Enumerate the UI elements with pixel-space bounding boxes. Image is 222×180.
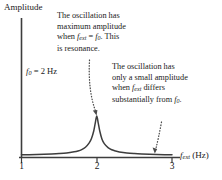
x-tick-label-3: 3	[165, 161, 179, 171]
x-axis-title-subscript: ext	[183, 153, 191, 160]
annotation-off-resonance-line-4-b: .	[180, 95, 182, 104]
annotation-off-resonance-line-4-a: substantially from	[112, 95, 174, 104]
annotation-off-resonance-line-4: substantially from f0.	[112, 95, 188, 107]
resonance-leader-arrow	[89, 60, 95, 111]
f0-value: = 2 Hz	[31, 66, 57, 76]
x-axis-title-units: (Hz)	[192, 150, 209, 160]
resonance-leader-arrowhead	[93, 110, 98, 116]
y-axis-title: Amplitude	[4, 2, 43, 12]
resonance-curve-path	[22, 116, 173, 155]
annotation-off-resonance-line-3-b: differs	[141, 83, 165, 92]
x-axis-title: fext (Hz)	[180, 150, 209, 160]
x-tick-label-1: 1	[15, 161, 29, 171]
annotation-off-resonance-line-3: when fext differs	[112, 83, 188, 95]
off-resonance-leader-arrowhead	[153, 148, 158, 154]
annotation-resonance-line-4: is resonance.	[57, 44, 126, 55]
annotation-off-resonance-line-2: only a small amplitude	[112, 73, 188, 84]
natural-frequency-label: f0 = 2 Hz	[26, 66, 57, 76]
annotation-resonance-equals: =	[86, 32, 95, 41]
resonance-curve-figure: Amplitude fext (Hz) 1 2 3 f0 = 2 Hz The …	[0, 0, 222, 180]
off-resonance-leader-arrow	[156, 122, 162, 149]
annotation-resonance-line-3-a: when	[57, 32, 77, 41]
x-tick-label-2: 2	[90, 161, 104, 171]
annotation-resonance-line-3-b: . This	[100, 32, 119, 41]
annotation-resonance-line-2: maximum amplitude	[57, 22, 126, 33]
annotation-resonance-line-1: The oscillation has	[57, 11, 126, 22]
annotation-resonance-line-3: when fext = f0. This	[57, 32, 126, 44]
annotation-off-resonance-line-3-a: when	[112, 83, 132, 92]
annotation-resonance: The oscillation has maximum amplitude wh…	[57, 11, 126, 55]
annotation-off-resonance-line-1: The oscillation has	[112, 62, 188, 73]
annotation-off-resonance: The oscillation has only a small amplitu…	[112, 62, 188, 107]
